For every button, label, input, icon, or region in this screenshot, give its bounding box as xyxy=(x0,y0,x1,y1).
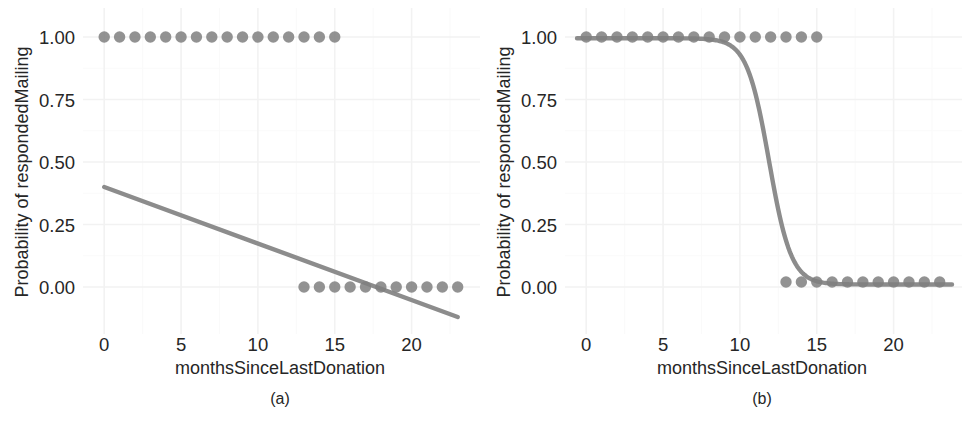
x-tick-label: 10 xyxy=(730,334,751,355)
y-tick-label: 0.50 xyxy=(521,152,557,173)
x-tick-label: 20 xyxy=(883,334,904,355)
y-tick-label: 0.00 xyxy=(521,277,557,298)
y-tick-label: 0.25 xyxy=(39,215,75,236)
x-tick-label: 20 xyxy=(401,334,422,355)
y-tick-label: 0.25 xyxy=(521,215,557,236)
x-tick-label: 15 xyxy=(324,334,345,355)
figure-container: 05101520 0.000.250.500.751.00 monthsSinc… xyxy=(0,0,964,427)
x-tick-label: 5 xyxy=(658,334,668,355)
y-tick-label: 1.00 xyxy=(521,27,557,48)
y-tick-label: 0.00 xyxy=(39,277,75,298)
chart-panel-a: 05101520 0.000.250.500.751.00 monthsSinc… xyxy=(0,0,482,410)
y-tick-label: 0.75 xyxy=(39,90,75,111)
x-tick-label: 10 xyxy=(248,334,269,355)
x-tick-label: 0 xyxy=(581,334,591,355)
x-tick-label: 15 xyxy=(806,334,827,355)
x-tick-label: 5 xyxy=(176,334,186,355)
chart-panel-b: 05101520 0.000.250.500.751.00 monthsSinc… xyxy=(482,0,964,410)
scatter-plot-b: 05101520 0.000.250.500.751.00 xyxy=(482,0,964,410)
y-tick-label: 0.50 xyxy=(39,152,75,173)
page-caption-bleed xyxy=(0,416,964,427)
scatter-plot-a: 05101520 0.000.250.500.751.00 xyxy=(0,0,482,410)
x-tick-label: 0 xyxy=(99,334,109,355)
y-tick-label: 0.75 xyxy=(521,90,557,111)
y-tick-label: 1.00 xyxy=(39,27,75,48)
